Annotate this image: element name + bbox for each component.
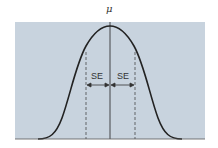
normal-curve-plot	[0, 0, 218, 148]
mean-label: μ	[106, 3, 113, 14]
normal-curve-figure: μ SE SE	[0, 0, 218, 148]
right-se-label: SE	[117, 71, 129, 81]
left-se-label: SE	[91, 71, 103, 81]
